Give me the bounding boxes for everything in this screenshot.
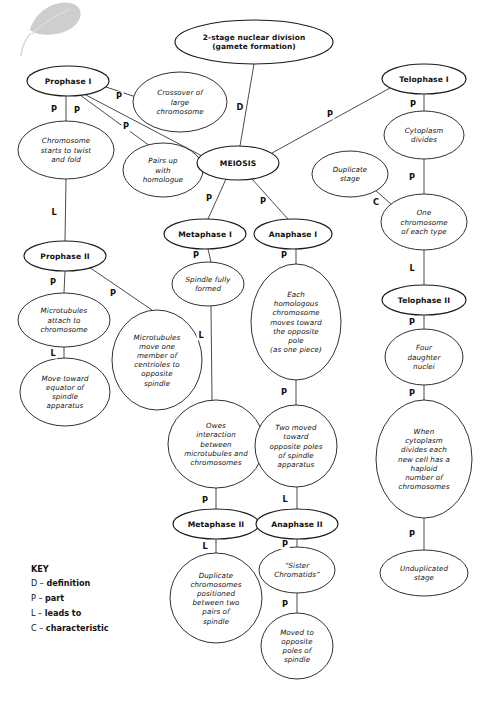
- node-dupchrom[interactable]: Duplicatechromosomespositionedbetween tw…: [170, 553, 262, 643]
- node-label-twomoved: of spindle: [278, 451, 314, 460]
- edge-label-prophase2-to-microtattach: P: [50, 277, 56, 287]
- node-telophase2[interactable]: Telophase II: [382, 285, 466, 315]
- node-label-owesinteract: between: [200, 440, 232, 449]
- node-label-onechrom: of each type: [401, 227, 447, 236]
- node-label-sisterchrom: “Sister: [285, 561, 311, 570]
- node-onechrom[interactable]: Onechromosomeof each type: [381, 194, 467, 250]
- edge-label-anaphase2-to-sisterchrom: P: [282, 539, 288, 549]
- edge-label-twomoved-to-anaphase2: L: [282, 494, 287, 504]
- edge-meiosis-to-anaphase1: [252, 179, 288, 219]
- node-label-sisterchrom: Chromatids”: [274, 570, 320, 579]
- node-fourdaughter[interactable]: Fourdaughternuclei: [385, 329, 463, 385]
- node-label-microtmove: opposite: [141, 369, 173, 378]
- node-microtmove[interactable]: Microtubulesmove onemember ofcentrioles …: [112, 310, 202, 410]
- node-label-dupchrom: positioned: [196, 589, 235, 598]
- edge-spindleformed-to-owesinteract: [211, 306, 212, 400]
- node-label-dupchrom: spindle: [203, 617, 230, 626]
- node-label-owesinteract: microtubules and: [184, 449, 248, 458]
- node-label-whencytoplasm: number of: [405, 473, 444, 482]
- edge-label-telophase1-to-meiosis: P: [327, 109, 333, 119]
- node-label-onechrom: One: [417, 208, 432, 217]
- node-twomoved[interactable]: Two movedtowardopposite polesof spindlea…: [255, 405, 337, 487]
- node-label-duplicate: Duplicate: [333, 165, 368, 174]
- node-label-meiosis: MEIOSIS: [220, 159, 257, 168]
- edge-label-metaphase2-to-dupchrom: L: [202, 541, 207, 551]
- node-label-prophase2: Prophase II: [40, 252, 90, 261]
- node-chromtwist[interactable]: Chromosomestarts to twistand fold: [18, 121, 114, 179]
- node-label-anaphase1: Anaphase I: [269, 230, 318, 239]
- node-label-twomoved: toward: [283, 432, 309, 441]
- node-label-cytoplasm1: divides: [411, 135, 437, 144]
- key-legend: KEY D – definitionP – partL – leads toC …: [31, 564, 109, 633]
- edge-label-spindleformed-to-owesinteract: L: [198, 330, 203, 340]
- node-label-crossover: large: [171, 98, 190, 107]
- edge-telophase1-to-meiosis: [272, 88, 390, 153]
- node-label-eachhomolog: homologous: [274, 299, 319, 308]
- node-owesinteract[interactable]: Owesinteractionbetweenmicrotubules andch…: [168, 400, 264, 488]
- node-telophase1[interactable]: Telophase I: [382, 64, 466, 94]
- node-label-whencytoplasm: chromosomes: [398, 482, 449, 491]
- node-label-movedopposite: spindle: [284, 655, 311, 664]
- edge-label-anaphase1-to-eachhomolog: P: [281, 250, 287, 260]
- node-label-onechrom: chromosome: [400, 218, 448, 227]
- node-pairsup[interactable]: Pairs upwithhomologue: [123, 143, 203, 197]
- edge-label-fourdaughter-to-whencytoplasm: P: [409, 388, 415, 398]
- edge-label-prophase1-to-meiosis: P: [123, 121, 129, 131]
- node-label-whencytoplasm: cytoplasm: [405, 436, 443, 445]
- node-label-movedopposite: poles of: [282, 646, 313, 655]
- node-duplicate[interactable]: Duplicatestage: [312, 151, 388, 197]
- edge-label-telophase2-to-fourdaughter: P: [409, 317, 415, 327]
- node-unduplicated[interactable]: Unduplicatedstage: [380, 550, 468, 596]
- node-label-microtattach: chromosome: [40, 325, 88, 334]
- node-label-eachhomolog: the opposite: [273, 327, 319, 336]
- node-label-eachhomolog: chromosome: [272, 308, 320, 317]
- node-meiosis[interactable]: MEIOSIS: [197, 146, 279, 180]
- node-label-cytoplasm1: Cytoplasm: [405, 126, 444, 135]
- node-movedopposite[interactable]: Moved tooppositepoles ofspindle: [261, 613, 333, 679]
- node-cytoplasm1[interactable]: Cytoplasmdivides: [384, 111, 464, 159]
- node-anaphase2[interactable]: Anaphase II: [256, 509, 338, 539]
- node-label-duplicate: stage: [340, 174, 361, 183]
- node-label-movedopposite: Moved to: [280, 628, 314, 637]
- node-movetoward[interactable]: Move towardequator ofspindleapparatus: [20, 358, 110, 426]
- node-label-microtmove: centrioles to: [134, 360, 180, 369]
- node-spindleformed[interactable]: Spindle fullyformed: [172, 262, 244, 306]
- node-crossover[interactable]: Crossover oflargechromosome: [133, 72, 227, 132]
- node-metaphase1[interactable]: Metaphase I: [164, 219, 246, 249]
- node-eachhomolog[interactable]: Eachhomologouschromosomemoves towardthe …: [251, 264, 341, 380]
- edge-label-duplicate-to-onechrom: C: [373, 197, 379, 207]
- leaf-watermark-icon: [21, 2, 81, 56]
- node-label-chromtwist: and fold: [51, 155, 81, 164]
- node-microtattach[interactable]: Microtubulesattach tochromosome: [18, 293, 110, 347]
- edge-label-telophase1-to-cytoplasm1: P: [410, 99, 416, 109]
- node-label-dupchrom: pairs of: [201, 607, 231, 616]
- key-title: KEY: [31, 564, 49, 574]
- node-label-metaphase1: Metaphase I: [178, 230, 232, 239]
- node-label-whencytoplasm: When: [414, 427, 435, 436]
- node-title[interactable]: 2-stage nuclear division(gamete formatio…: [175, 20, 333, 64]
- node-sisterchrom[interactable]: “SisterChromatids”: [259, 547, 335, 593]
- node-label-telophase2: Telophase II: [398, 296, 450, 305]
- node-label-eachhomolog: moves toward: [270, 318, 322, 327]
- node-prophase2[interactable]: Prophase II: [24, 241, 106, 271]
- concept-map-canvas: 2-stage nuclear division(gamete formatio…: [0, 0, 482, 704]
- node-label-microtattach: attach to: [48, 316, 81, 325]
- node-label-whencytoplasm: new cell has a: [398, 455, 450, 464]
- node-metaphase2[interactable]: Metaphase II: [173, 509, 259, 539]
- node-label-chromtwist: starts to twist: [41, 146, 91, 155]
- node-label-microtmove: member of: [137, 351, 178, 360]
- node-label-microtmove: move one: [139, 342, 176, 351]
- node-label-anaphase2: Anaphase II: [271, 520, 323, 529]
- node-prophase1[interactable]: Prophase I: [27, 66, 109, 96]
- node-label-prophase1: Prophase I: [45, 77, 92, 86]
- node-label-pairsup: homologue: [143, 175, 184, 184]
- node-label-crossover: Crossover of: [157, 88, 204, 97]
- node-anaphase1[interactable]: Anaphase I: [254, 219, 332, 249]
- edge-prophase2-to-microtattach: [64, 271, 65, 293]
- node-label-owesinteract: chromosomes: [190, 458, 241, 467]
- node-label-twomoved: opposite poles: [269, 442, 322, 451]
- key-entry-c: C – characteristic: [31, 623, 109, 633]
- key-entries: D – definitionP – partL – leads toC – ch…: [31, 578, 109, 633]
- node-label-metaphase2: Metaphase II: [188, 520, 245, 529]
- node-whencytoplasm[interactable]: Whencytoplasmdivides eachnew cell has ah…: [376, 400, 472, 518]
